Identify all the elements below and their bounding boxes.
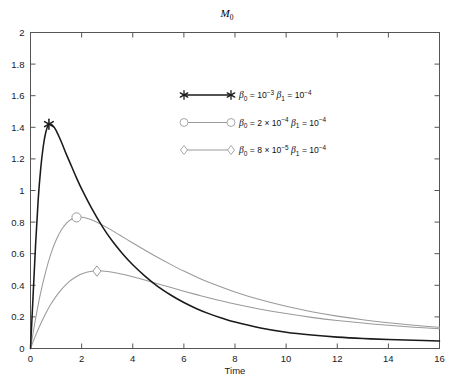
y-tick-label: 0.8: [11, 217, 24, 228]
x-axis-label: Time: [225, 365, 246, 376]
series-marker-circle: [180, 119, 188, 127]
x-tick-label: 8: [232, 353, 237, 364]
y-tick-label: 1.6: [11, 90, 24, 101]
y-tick-label: 1.2: [11, 153, 24, 164]
y-tick-label: 0.6: [11, 248, 24, 259]
x-tick-label: 4: [130, 353, 135, 364]
y-tick-label: 1.4: [11, 122, 24, 133]
y-tick-label: 0.4: [11, 280, 24, 291]
x-tick-label: 2: [79, 353, 84, 364]
line-chart: M0 0246810121416 00.20.40.60.811.21.41.6…: [0, 0, 454, 381]
y-tick-label: 1.8: [11, 59, 24, 70]
series-marker-circle: [72, 213, 81, 222]
chart-background: [0, 0, 454, 381]
x-tick-label: 12: [332, 353, 343, 364]
y-tick-label: 0: [19, 343, 24, 354]
x-tick-label: 6: [181, 353, 186, 364]
x-tick-label: 16: [434, 353, 445, 364]
x-tick-label: 14: [383, 353, 394, 364]
x-tick-label: 0: [28, 353, 33, 364]
chart-figure: M0 0246810121416 00.20.40.60.811.21.41.6…: [0, 0, 454, 381]
y-tick-label: 2: [19, 27, 24, 38]
legend-label: β0 = 10−3 β1 = 10−4: [238, 89, 312, 102]
x-tick-label: 10: [281, 353, 292, 364]
y-tick-label: 1: [19, 185, 24, 196]
series-marker-circle: [227, 119, 235, 127]
y-tick-label: 0.2: [11, 311, 24, 322]
